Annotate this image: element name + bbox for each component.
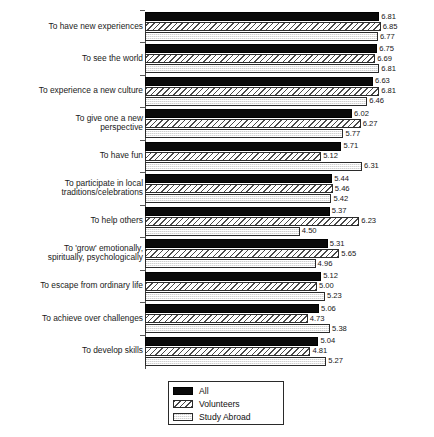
bar-all xyxy=(145,207,330,216)
bar-group: 6.816.856.77 xyxy=(145,12,434,41)
bar-value-label: 6.81 xyxy=(379,87,396,95)
bar-value-label: 5.27 xyxy=(326,357,343,365)
bar-row: 4.50 xyxy=(145,227,434,236)
bar-abroad xyxy=(145,64,379,73)
bar-value-label: 5.77 xyxy=(343,130,360,138)
bar-value-label: 5.46 xyxy=(333,185,350,193)
bar-row: 5.42 xyxy=(145,194,434,203)
bar-row: 6.63 xyxy=(145,77,434,86)
bar-group: 5.315.654.96 xyxy=(145,239,434,268)
category-label: To escape from ordinary life xyxy=(0,281,143,291)
axis-tick xyxy=(140,270,145,271)
legend-label-study-abroad: Study Abroad xyxy=(199,413,251,422)
category-group: To have fun5.715.126.31 xyxy=(0,142,434,171)
bar-row: 6.81 xyxy=(145,12,434,21)
bar-row: 5.38 xyxy=(145,324,434,333)
bar-all xyxy=(145,109,352,118)
bar-vol xyxy=(145,119,361,128)
bar-abroad xyxy=(145,162,362,171)
category-group: To participate in local traditions/celeb… xyxy=(0,174,434,203)
bar-value-label: 6.81 xyxy=(379,65,396,73)
category-label: To see the world xyxy=(0,54,143,64)
category-group: To give one a new perspective6.026.275.7… xyxy=(0,109,434,138)
bar-row: 6.75 xyxy=(145,44,434,53)
bar-value-label: 5.23 xyxy=(325,292,342,300)
category-group: To have new experiences6.816.856.77 xyxy=(0,12,434,41)
chart-legend: All Volunteers Study Abroad xyxy=(168,381,284,425)
bar-value-label: 4.73 xyxy=(308,315,325,323)
bar-vol xyxy=(145,87,379,96)
bar-all xyxy=(145,44,377,53)
axis-tick xyxy=(140,205,145,206)
bar-abroad xyxy=(145,292,325,301)
category-label: To give one a new perspective xyxy=(0,114,143,133)
bar-row: 5.23 xyxy=(145,292,434,301)
bar-row: 6.23 xyxy=(145,217,434,226)
bar-value-label: 5.12 xyxy=(321,272,338,280)
bar-group: 6.636.816.46 xyxy=(145,77,434,106)
bar-all xyxy=(145,304,319,313)
category-label: To have fun xyxy=(0,152,143,162)
legend-label-volunteers: Volunteers xyxy=(199,400,240,409)
bar-row: 4.96 xyxy=(145,259,434,268)
legend-item-study-abroad: Study Abroad xyxy=(173,411,279,423)
bar-abroad xyxy=(145,97,367,106)
bar-value-label: 5.37 xyxy=(330,207,347,215)
bar-value-label: 6.63 xyxy=(373,77,390,85)
legend-label-all: All xyxy=(199,387,209,396)
bar-row: 6.27 xyxy=(145,119,434,128)
plot-area: To have new experiences6.816.856.77To se… xyxy=(0,0,434,380)
bar-abroad xyxy=(145,32,378,41)
bar-value-label: 6.46 xyxy=(367,97,384,105)
category-label: To help others xyxy=(0,216,143,226)
bar-all xyxy=(145,337,318,346)
bar-row: 5.71 xyxy=(145,142,434,151)
bar-value-label: 6.77 xyxy=(378,33,395,41)
bar-value-label: 5.12 xyxy=(321,152,338,160)
bar-group: 5.044.815.27 xyxy=(145,337,434,366)
category-label: To have new experiences xyxy=(0,22,143,32)
bar-abroad xyxy=(145,324,330,333)
bar-row: 6.02 xyxy=(145,109,434,118)
bar-value-label: 5.71 xyxy=(341,142,358,150)
bar-value-label: 5.31 xyxy=(328,240,345,248)
bar-abroad xyxy=(145,259,316,268)
axis-tick xyxy=(140,140,145,141)
legend-item-all: All xyxy=(173,385,279,397)
bar-row: 6.77 xyxy=(145,32,434,41)
axis-tick xyxy=(140,42,145,43)
bar-row: 4.73 xyxy=(145,314,434,323)
bar-value-label: 4.96 xyxy=(316,260,333,268)
bar-value-label: 5.44 xyxy=(332,175,349,183)
bar-row: 6.46 xyxy=(145,97,434,106)
bar-row: 5.12 xyxy=(145,152,434,161)
bar-value-label: 6.81 xyxy=(379,13,396,21)
bar-group: 5.445.465.42 xyxy=(145,174,434,203)
bar-row: 6.85 xyxy=(145,22,434,31)
bar-value-label: 6.85 xyxy=(381,23,398,31)
bar-row: 6.31 xyxy=(145,162,434,171)
legend-item-volunteers: Volunteers xyxy=(173,398,279,410)
bar-vol xyxy=(145,314,308,323)
axis-tick xyxy=(140,107,145,108)
category-label: To develop skills xyxy=(0,346,143,356)
bar-all xyxy=(145,272,321,281)
category-group: To help others5.376.234.50 xyxy=(0,207,434,236)
bar-row: 4.81 xyxy=(145,347,434,356)
bar-vol xyxy=(145,54,375,63)
category-group: To 'grow' emotionally, spiritually, psyc… xyxy=(0,239,434,268)
bar-value-label: 6.75 xyxy=(377,45,394,53)
bar-value-label: 4.50 xyxy=(300,227,317,235)
bar-row: 6.81 xyxy=(145,87,434,96)
axis-tick xyxy=(140,75,145,76)
category-label: To achieve over challenges xyxy=(0,314,143,324)
bar-row: 5.46 xyxy=(145,184,434,193)
bar-group: 5.125.005.23 xyxy=(145,272,434,301)
bar-row: 5.31 xyxy=(145,239,434,248)
bar-value-label: 5.00 xyxy=(317,282,334,290)
axis-tick xyxy=(140,335,145,336)
bar-abroad xyxy=(145,194,331,203)
bar-all xyxy=(145,174,332,183)
category-group: To see the world6.756.696.81 xyxy=(0,44,434,73)
bar-vol xyxy=(145,347,310,356)
